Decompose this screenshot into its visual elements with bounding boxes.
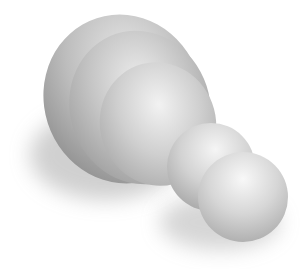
- small-sphere-front: [198, 152, 288, 242]
- rendered-scene: [0, 0, 303, 269]
